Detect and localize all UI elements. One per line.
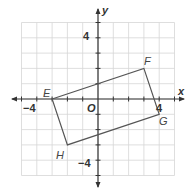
y-axis-label: y	[101, 4, 109, 16]
y-axis-up-arrow-icon	[96, 8, 101, 14]
coordinate-plane: x y O −4 4 4 −4 E F G H	[0, 0, 189, 192]
y-axis-down-arrow-icon	[96, 182, 101, 188]
vertex-label-h: H	[56, 149, 64, 161]
x-axis-right-arrow-icon	[179, 97, 185, 102]
quadrilateral-efgh	[52, 68, 159, 144]
x-tick-label-neg4: −4	[23, 102, 36, 114]
origin-label: O	[87, 102, 96, 114]
x-axis-label: x	[177, 85, 185, 97]
vertex-label-f: F	[144, 55, 152, 67]
x-axis-left-arrow-icon	[11, 97, 17, 102]
vertex-label-e: E	[43, 87, 51, 99]
y-tick-label-neg4: −4	[78, 157, 91, 169]
vertex-label-g: G	[159, 115, 168, 127]
y-tick-label-4: 4	[83, 30, 90, 42]
x-tick-label-4: 4	[156, 102, 163, 114]
